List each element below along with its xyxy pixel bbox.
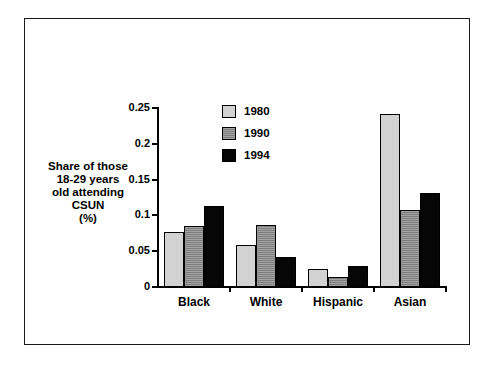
bar-hispanic-1990 — [328, 277, 348, 287]
bar-white-1990 — [256, 225, 276, 287]
y-axis-tick-labels: 00.050.10.150.20.25 — [108, 0, 150, 369]
legend-swatch-icon — [222, 127, 236, 140]
legend-item-1990: 1990 — [222, 126, 270, 140]
bar-asian-1980 — [380, 114, 400, 287]
y-axis-tick-label: 0.15 — [129, 174, 150, 185]
legend-swatch-icon — [222, 105, 236, 118]
bar-white-1980 — [236, 245, 256, 287]
bar-black-1980 — [164, 232, 184, 287]
plot-area — [158, 108, 446, 287]
chart-legend: 198019901994 — [222, 104, 270, 170]
legend-item-1980: 1980 — [222, 104, 270, 118]
bar-group — [302, 108, 374, 287]
y-axis-tick-label: 0.1 — [135, 209, 150, 220]
y-axis-tick-label: 0.25 — [129, 102, 150, 113]
bar-hispanic-1994 — [348, 266, 368, 287]
legend-label: 1994 — [244, 149, 270, 161]
bar-group — [158, 108, 230, 287]
bar-group — [374, 108, 446, 287]
y-axis-tick-label: 0.05 — [129, 245, 150, 256]
legend-label: 1980 — [244, 105, 270, 117]
bar-hispanic-1980 — [308, 269, 328, 287]
legend-swatch-icon — [222, 149, 236, 162]
bar-black-1990 — [184, 226, 204, 287]
legend-item-1994: 1994 — [222, 148, 270, 162]
x-axis-category-label: White — [230, 295, 302, 309]
chart-figure: Share of those 18-29 years old attending… — [0, 0, 495, 369]
x-axis-category-label: Asian — [374, 295, 446, 309]
bar-asian-1990 — [400, 210, 420, 287]
bar-white-1994 — [276, 257, 296, 287]
bar-black-1994 — [204, 206, 224, 287]
y-axis-tick-label: 0.2 — [135, 138, 150, 149]
y-axis-tick-label: 0 — [144, 281, 150, 292]
x-axis-category-label: Black — [158, 295, 230, 309]
x-axis-category-label: Hispanic — [302, 295, 374, 309]
bar-asian-1994 — [420, 193, 440, 287]
legend-label: 1990 — [244, 127, 270, 139]
